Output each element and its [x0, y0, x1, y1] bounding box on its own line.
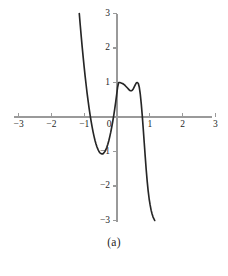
- y-tick-label: −2: [100, 180, 110, 190]
- plot-area: −3−2−10123 −3−2−1123: [0, 0, 228, 232]
- y-tick-label: 2: [105, 42, 110, 52]
- figure-caption: (a): [0, 236, 228, 248]
- x-tick-label: 3: [213, 119, 218, 129]
- x-tick-label: −2: [46, 119, 56, 129]
- figure-container: −3−2−10123 −3−2−1123 (a): [0, 0, 228, 276]
- x-tick-label: −1: [79, 119, 89, 129]
- x-axis-group: −3−2−10123: [14, 113, 218, 129]
- y-tick-label: −3: [100, 215, 110, 225]
- x-tick-label: −3: [14, 119, 24, 129]
- y-tick-label: 1: [105, 77, 110, 87]
- y-axis-tick-labels: −3−2−1123: [100, 8, 110, 225]
- x-tick-label: 1: [147, 119, 152, 129]
- y-tick-label: 3: [105, 8, 110, 18]
- plot-svg: −3−2−10123 −3−2−1123: [0, 0, 228, 232]
- x-tick-label: 2: [180, 119, 185, 129]
- x-axis-tick-labels: −3−2−10123: [14, 119, 218, 129]
